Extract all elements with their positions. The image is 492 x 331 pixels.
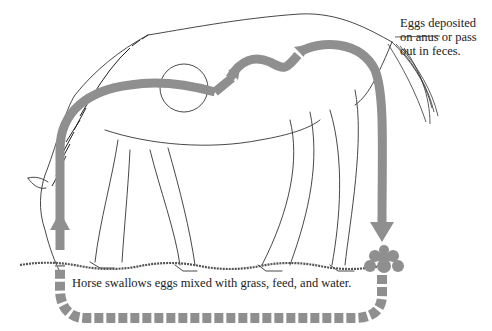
swallow-label: Horse swallows eggs mixed with grass, fe… — [72, 276, 351, 290]
lifecycle-diagram: Eggs deposited on anus or pass out in fe… — [0, 0, 492, 331]
lifecycle-arrow — [50, 45, 404, 273]
eggs-deposited-label: Eggs deposited on anus or pass out in fe… — [400, 16, 490, 58]
up-arrowhead — [50, 212, 70, 230]
down-arrowhead — [370, 222, 394, 242]
label-line: on anus or pass — [400, 30, 490, 44]
grass — [20, 263, 380, 269]
horse-outline — [28, 14, 392, 272]
label-line: Eggs deposited — [400, 16, 490, 30]
mane — [52, 35, 148, 186]
label-line: out in feces. — [400, 44, 490, 58]
return-path — [60, 265, 382, 318]
